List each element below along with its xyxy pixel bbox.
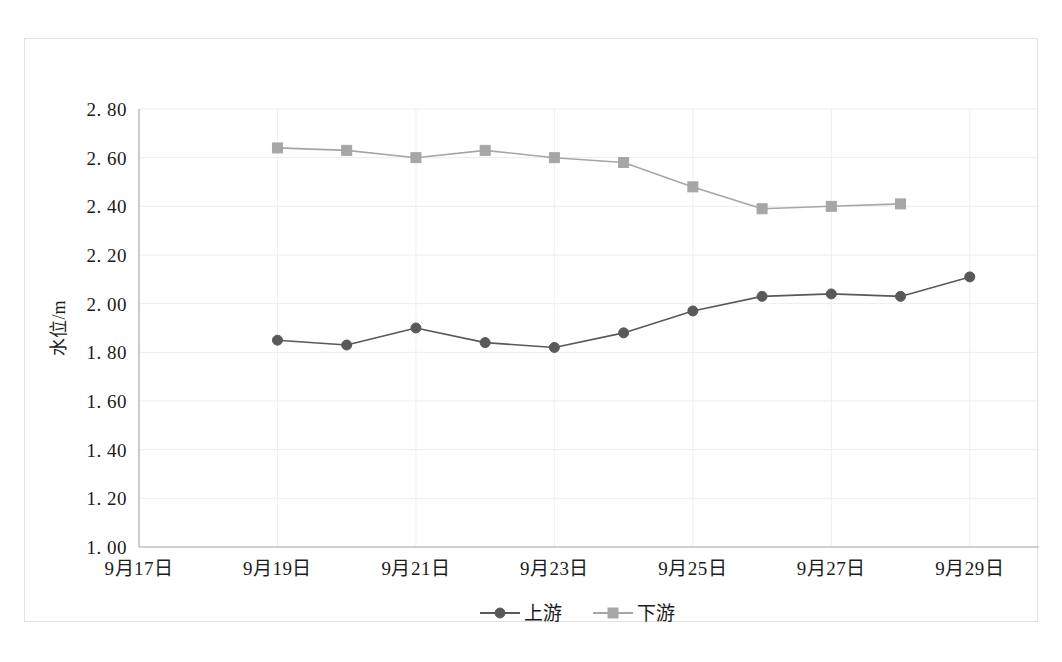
data-point-marker <box>688 306 698 316</box>
x-tick-label: 9月27日 <box>797 558 866 579</box>
data-series <box>272 143 905 214</box>
axis-layer <box>139 109 1039 547</box>
data-point-marker <box>549 342 559 352</box>
data-point-marker <box>619 158 629 168</box>
x-tick-label: 9月17日 <box>105 558 174 579</box>
chart-root: 2. 802. 602. 402. 202. 001. 801. 601. 40… <box>0 0 1062 662</box>
data-point-marker <box>342 340 352 350</box>
data-point-marker <box>688 182 698 192</box>
legend-label: 下游 <box>637 603 675 623</box>
y-tick-label: 1. 00 <box>87 537 128 558</box>
data-point-marker <box>480 145 490 155</box>
data-point-marker <box>757 291 767 301</box>
y-tick-label: 1. 80 <box>87 342 128 363</box>
data-point-marker <box>619 328 629 338</box>
y-tick-label: 2. 20 <box>87 245 128 266</box>
data-point-marker <box>826 201 836 211</box>
data-point-marker <box>965 272 975 282</box>
legend-item[interactable]: 上游 <box>480 603 562 623</box>
data-point-marker <box>411 323 421 333</box>
line-chart-canvas: 2. 802. 602. 402. 202. 001. 801. 601. 40… <box>25 39 1039 623</box>
y-tick-label: 1. 60 <box>87 391 128 412</box>
series-line <box>278 148 901 209</box>
data-point-marker <box>411 153 421 163</box>
data-point-marker <box>272 143 282 153</box>
data-point-marker <box>272 335 282 345</box>
legend-marker <box>608 608 618 618</box>
y-tick-label: 2. 40 <box>87 196 128 217</box>
data-point-marker <box>480 338 490 348</box>
chart-frame: 2. 802. 602. 402. 202. 001. 801. 601. 40… <box>24 38 1038 622</box>
data-point-marker <box>549 153 559 163</box>
y-tick-label: 1. 20 <box>87 488 128 509</box>
x-tick-label: 9月21日 <box>381 558 450 579</box>
data-point-marker <box>896 199 906 209</box>
x-tick-label: 9月19日 <box>243 558 312 579</box>
y-axis-title: 水位/m <box>49 300 69 355</box>
legend-item[interactable]: 下游 <box>593 603 675 623</box>
y-tick-label: 2. 80 <box>87 99 128 120</box>
x-tick-labels: 9月17日9月19日9月21日9月23日9月25日9月27日9月29日 <box>105 558 1005 579</box>
legend-label: 上游 <box>524 603 562 623</box>
x-tick-label: 9月23日 <box>520 558 589 579</box>
y-axis-title-text: 水位/m <box>49 300 69 355</box>
data-series <box>272 272 974 353</box>
data-point-marker <box>342 145 352 155</box>
y-tick-label: 2. 60 <box>87 148 128 169</box>
x-tick-label: 9月29日 <box>935 558 1004 579</box>
x-tick-label: 9月25日 <box>658 558 727 579</box>
y-tick-labels: 2. 802. 602. 402. 202. 001. 801. 601. 40… <box>87 99 128 558</box>
legend-marker <box>495 608 505 618</box>
series-layer <box>272 143 974 353</box>
y-tick-label: 2. 00 <box>87 294 128 315</box>
data-point-marker <box>896 291 906 301</box>
grid-layer <box>139 109 1039 547</box>
data-point-marker <box>757 204 767 214</box>
data-point-marker <box>826 289 836 299</box>
chart-legend: 上游下游 <box>480 603 675 623</box>
y-tick-label: 1. 40 <box>87 440 128 461</box>
